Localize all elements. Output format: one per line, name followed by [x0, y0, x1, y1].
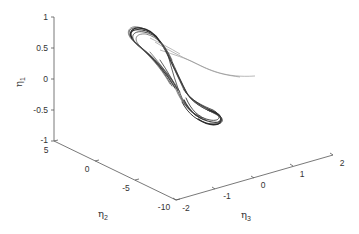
svg-text:5: 5 [44, 145, 49, 155]
svg-text:0: 0 [43, 74, 48, 84]
eta2-axis-line [54, 141, 176, 200]
svg-text:-5: -5 [122, 183, 130, 193]
attractor-plot: 1 0.5 0 -0.5 -1 η1 5 0 -5 -10 η2 -2 -1 0… [0, 0, 359, 234]
attractor-trajectory [128, 27, 222, 125]
eta3-axis-line [176, 155, 333, 200]
eta3-tick-labels: -2 -1 0 1 2 [182, 158, 344, 213]
svg-text:0: 0 [85, 164, 90, 174]
eta3-axis-label: η3 [241, 209, 251, 222]
eta2-tick-labels: 5 0 -5 -10 [44, 145, 171, 212]
svg-text:-0.5: -0.5 [33, 105, 48, 115]
svg-text:0: 0 [261, 180, 266, 190]
svg-text:η1: η1 [13, 77, 26, 87]
svg-text:-1: -1 [40, 135, 48, 145]
eta2-axis-label: η2 [98, 208, 108, 221]
svg-text:-2: -2 [182, 203, 190, 213]
svg-text:1: 1 [300, 169, 305, 179]
svg-text:2: 2 [340, 158, 345, 168]
svg-text:1: 1 [43, 12, 48, 22]
eta1-tick-labels: 1 0.5 0 -0.5 -1 [33, 12, 48, 145]
svg-text:η2: η2 [98, 208, 108, 221]
svg-text:-1: -1 [223, 191, 231, 201]
eta1-axis-label: η1 [13, 77, 26, 87]
svg-text:-10: -10 [158, 202, 171, 212]
svg-text:η3: η3 [241, 209, 251, 222]
svg-text:0.5: 0.5 [36, 43, 48, 53]
